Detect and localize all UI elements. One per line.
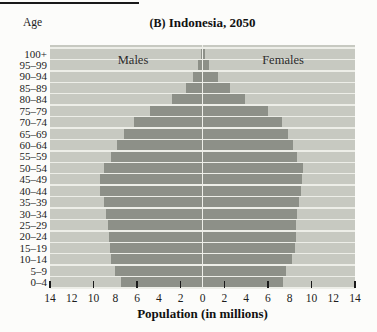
female-bar [203,185,301,196]
center-axis-line [202,45,204,288]
male-bar [104,197,202,208]
female-bar [203,197,299,208]
x-tick-label: 6 [125,292,149,304]
x-tick-mark [354,281,355,289]
x-tick-mark [49,281,50,289]
age-group-label: 0–4 [0,277,47,288]
female-bar [203,277,284,288]
male-bar [172,94,203,105]
age-group-label: 80–84 [0,94,47,105]
females-series-label: Females [248,53,318,68]
male-bar [117,139,202,150]
age-group-label: 35–39 [0,197,47,208]
male-bar [150,105,202,116]
age-group-label: 70–74 [0,117,47,128]
x-tick-mark [311,281,312,289]
x-tick-label: 6 [256,292,280,304]
male-bar [104,162,202,173]
x-tick-label: 8 [103,292,127,304]
male-bar [186,82,202,93]
female-bar [203,59,210,70]
female-bar [203,162,303,173]
female-bar [203,242,296,253]
female-bar [203,128,289,139]
x-tick-label: 2 [212,292,236,304]
x-tick-mark [180,281,181,289]
male-bar [100,174,202,185]
female-bar [203,82,230,93]
chart-title: (B) Indonesia, 2050 [92,15,313,31]
male-bar [100,185,202,196]
x-tick-label: 8 [278,292,302,304]
top-rule-line [0,2,139,4]
female-bar [203,105,268,116]
female-bar [203,254,292,265]
male-bar [111,254,202,265]
x-tick-label: 10 [82,292,106,304]
y-axis-title: Age [23,16,42,28]
population-pyramid-figure: Age (B) Indonesia, 2050 Males Females 10… [0,0,377,332]
male-bar [110,242,203,253]
age-group-label: 10–14 [0,254,47,265]
x-tick-mark [224,281,225,289]
male-bar [124,128,202,139]
chart-title-panel-letter: (B) [150,16,166,30]
x-tick-label: 12 [321,292,345,304]
x-tick-label: 14 [38,292,62,304]
age-group-label: 45–49 [0,174,47,185]
x-tick-mark [136,281,137,289]
female-bar [203,174,302,185]
x-tick-label: 12 [60,292,84,304]
female-bar [203,231,296,242]
female-bar [203,71,218,82]
x-tick-mark [267,281,268,289]
male-bar [108,219,203,230]
x-tick-label: 2 [169,292,193,304]
x-tick-label: 4 [234,292,258,304]
male-bar [111,151,203,162]
female-bar [203,139,293,150]
male-bar [109,231,203,242]
female-bar [203,94,246,105]
x-tick-label: 14 [343,292,367,304]
x-axis-title: Population (in millions) [102,306,303,322]
x-tick-mark [93,281,94,289]
male-bar [106,208,202,219]
males-series-label: Males [98,53,168,68]
female-bar [203,219,297,230]
male-bar [134,117,203,128]
x-tick-label: 4 [147,292,171,304]
female-bar [203,208,298,219]
female-bar [203,117,283,128]
x-tick-label: 10 [300,292,324,304]
x-tick-label: 0 [191,292,215,304]
male-bar [121,277,203,288]
female-bar [203,151,297,162]
male-bar [115,265,202,276]
female-bar [203,265,287,276]
plot-area: Males Females [50,45,355,289]
chart-title-text: Indonesia, 2050 [166,15,256,30]
